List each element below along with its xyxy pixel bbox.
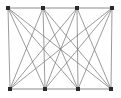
- graph-node-t1: [6, 6, 9, 9]
- graph-node-b4: [109, 87, 112, 90]
- graph-diagram: [0, 0, 121, 98]
- graph-node-b3: [76, 87, 79, 90]
- graph-node-t2: [41, 6, 44, 9]
- graph-node-b1: [8, 87, 11, 90]
- graph-node-t4: [110, 6, 113, 9]
- graph-node-t3: [75, 6, 78, 9]
- graph-canvas: [0, 0, 121, 98]
- graph-node-b2: [43, 87, 46, 90]
